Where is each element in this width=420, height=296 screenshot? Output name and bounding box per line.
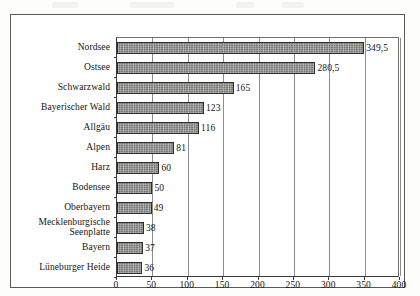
bar-row: 349,5 <box>117 42 398 54</box>
bar: 38 <box>117 222 144 234</box>
bar-row: 60 <box>117 162 398 174</box>
x-axis-tick-label: 300 <box>321 280 336 290</box>
scan-artifact <box>236 2 254 8</box>
bar: 49 <box>117 202 152 214</box>
x-axis-tick-label: 150 <box>215 280 230 290</box>
category-label-line: Nordsee <box>78 42 110 53</box>
bar-row: 36 <box>117 262 398 274</box>
bar: 60 <box>117 162 159 174</box>
y-axis-category-label: Bodensee <box>72 182 110 193</box>
bar-value-label: 349,5 <box>366 43 388 53</box>
bar-value-label: 49 <box>154 203 164 213</box>
category-label-line: Seenplatte <box>38 227 110 238</box>
bar-row: 123 <box>117 102 398 114</box>
bar: 349,5 <box>117 42 364 54</box>
y-axis-category-label: Harz <box>91 162 110 173</box>
x-axis-tick-label: 200 <box>250 280 265 290</box>
x-axis-tick-label: 400 <box>392 280 407 290</box>
bar-row: 37 <box>117 242 398 254</box>
bar: 37 <box>117 242 143 254</box>
x-axis-tick-label: 100 <box>179 280 194 290</box>
bar-row: 280,5 <box>117 62 398 74</box>
scan-artifact <box>130 2 174 8</box>
category-label-line: Bayerischer Wald <box>41 102 110 113</box>
y-axis-category-label: Alpen <box>86 142 110 153</box>
bar-row: 81 <box>117 142 398 154</box>
bar: 36 <box>117 262 142 274</box>
bar: 81 <box>117 142 174 154</box>
bar: 123 <box>117 102 204 114</box>
x-axis-tick-labels: 050100150200250300350400 <box>116 280 399 294</box>
category-label-line: Schwarzwald <box>58 82 110 93</box>
y-axis-category-label: Nordsee <box>78 42 110 53</box>
y-axis-category-label: Schwarzwald <box>58 82 110 93</box>
category-label-line: Oberbayern <box>64 202 110 213</box>
y-axis-category-label: Ostsee <box>84 62 110 73</box>
category-label-line: Bayern <box>82 242 110 253</box>
bar-value-label: 165 <box>236 83 251 93</box>
y-axis-category-label: Allgäu <box>84 122 110 133</box>
category-label-line: Mecklenburgische <box>38 217 110 228</box>
bar-value-label: 37 <box>145 243 155 253</box>
category-label-line: Harz <box>91 162 110 173</box>
x-axis-tick-label: 50 <box>147 280 157 290</box>
plot-area: 349,5280,516512311681605049383736 <box>116 37 399 277</box>
bar-value-label: 123 <box>206 103 221 113</box>
bar-value-label: 116 <box>201 123 215 133</box>
category-label-line: Bodensee <box>72 182 110 193</box>
bar: 50 <box>117 182 152 194</box>
category-label-line: Allgäu <box>84 122 110 133</box>
chart-outer-border: NordseeOstseeSchwarzwaldBayerischer Wald… <box>10 14 405 288</box>
bar-row: 38 <box>117 222 398 234</box>
y-axis-category-label: Bayerischer Wald <box>41 102 110 113</box>
y-axis-category-label: MecklenburgischeSeenplatte <box>38 217 110 238</box>
bar-value-label: 50 <box>154 183 164 193</box>
bar-value-label: 280,5 <box>317 63 339 73</box>
x-axis-tick-label: 250 <box>286 280 301 290</box>
y-axis-category-label: Lüneburger Heide <box>39 262 110 273</box>
scan-artifact <box>52 2 78 8</box>
y-axis-category-labels: NordseeOstseeSchwarzwaldBayerischer Wald… <box>11 37 114 277</box>
bar: 165 <box>117 82 234 94</box>
bar-row: 50 <box>117 182 398 194</box>
category-label-line: Ostsee <box>84 62 110 73</box>
category-label-line: Alpen <box>86 142 110 153</box>
bar: 116 <box>117 122 199 134</box>
x-axis-tick-label: 0 <box>114 280 119 290</box>
bar-value-label: 81 <box>176 143 186 153</box>
y-axis-category-label: Bayern <box>82 242 110 253</box>
category-label-line: Lüneburger Heide <box>39 262 110 273</box>
bar-value-label: 60 <box>161 163 171 173</box>
bar: 280,5 <box>117 62 315 74</box>
bar-row: 165 <box>117 82 398 94</box>
bar-row: 116 <box>117 122 398 134</box>
bar-row: 49 <box>117 202 398 214</box>
bar-value-label: 36 <box>144 263 154 273</box>
chart-screenshot: NordseeOstseeSchwarzwaldBayerischer Wald… <box>0 0 420 296</box>
scan-artifact <box>282 2 304 8</box>
x-axis-tick-label: 350 <box>356 280 371 290</box>
gridline <box>400 38 401 276</box>
y-axis-category-label: Oberbayern <box>64 202 110 213</box>
bar-series: 349,5280,516512311681605049383736 <box>117 38 398 276</box>
bar-value-label: 38 <box>146 223 156 233</box>
